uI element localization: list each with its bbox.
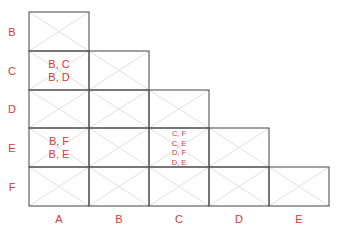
cell-e-c: C, F C, E D, F D, E [149,129,209,167]
col-label-a: A [29,214,89,225]
cell-entry: C, E [149,139,209,149]
col-label-b: B [89,214,149,225]
row-label-b: B [2,27,22,38]
cell-diagonals [29,12,329,206]
col-label-e: E [269,214,329,225]
row-label-d: D [2,104,22,115]
cell-entry: C, F [149,129,209,139]
col-label-c: C [149,214,209,225]
cell-entry: B, C [29,58,89,71]
cell-c-a: B, C B, D [29,58,89,84]
row-label-c: C [2,66,22,77]
cell-entry: D, F [149,148,209,158]
cell-entry: B, D [29,71,89,84]
cell-e-a: B, F B, E [29,135,89,161]
row-label-e: E [2,143,22,154]
cell-entry: B, E [29,148,89,161]
cell-entry: D, E [149,158,209,168]
cell-entry: B, F [29,135,89,148]
col-label-d: D [209,214,269,225]
row-label-f: F [2,182,22,193]
matrix-grid [0,0,347,235]
